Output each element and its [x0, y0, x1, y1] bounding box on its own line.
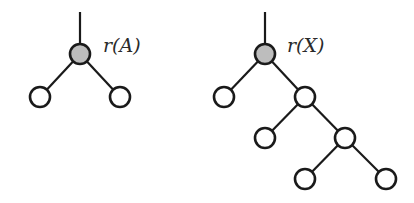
- root-label: r(A): [103, 34, 141, 56]
- tree-x: r(X): [214, 12, 396, 189]
- tree-a: r(A): [30, 12, 141, 107]
- tree-node: [255, 128, 275, 148]
- tree-node: [214, 87, 234, 107]
- tree-node: [295, 169, 315, 189]
- root-label: r(X): [287, 34, 324, 56]
- tree-node: [376, 169, 396, 189]
- tree-node: [110, 87, 130, 107]
- tree-node: [335, 128, 355, 148]
- tree-diagram: r(A) r(X): [0, 0, 414, 203]
- root-node: [255, 44, 275, 64]
- tree-node: [30, 87, 50, 107]
- root-node: [70, 44, 90, 64]
- tree-node: [295, 87, 315, 107]
